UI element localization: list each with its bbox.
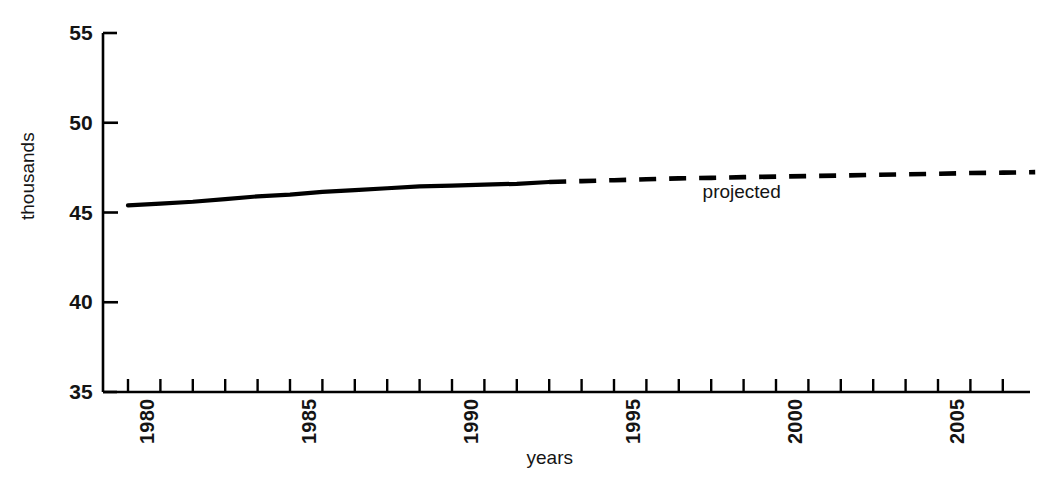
series-annotation-projected: projected [703, 182, 781, 201]
x-axis-tick-label: 2005 [947, 399, 967, 444]
x-axis-ticks [128, 379, 1003, 392]
y-axis-tick-label: 45 [47, 202, 93, 223]
x-axis-tick-label: 1990 [461, 399, 481, 444]
y-axis-tick-label: 50 [47, 112, 93, 133]
y-axis-tick-label: 35 [47, 381, 93, 402]
series-line-projected [549, 172, 1035, 182]
x-axis-title: years [527, 448, 573, 467]
series-line-actual [128, 182, 549, 205]
x-axis-tick-label: 1995 [623, 399, 643, 444]
y-axis-tick-label: 55 [47, 22, 93, 43]
x-axis-tick-label: 2000 [785, 399, 805, 444]
x-axis-tick-label: 1985 [299, 399, 319, 444]
y-axis-ticks [103, 33, 118, 392]
x-axis-tick-label: 1980 [137, 399, 157, 444]
y-axis-title: thousands [18, 132, 37, 220]
y-axis-tick-label: 40 [47, 291, 93, 312]
axis-lines [103, 33, 1030, 392]
line-chart: 5550454035 198019851990199520002005 proj… [0, 0, 1046, 488]
